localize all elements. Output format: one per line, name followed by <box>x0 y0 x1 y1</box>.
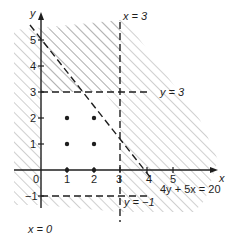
label-yneg1: y = −1 <box>123 196 155 208</box>
label-y3: y = 3 <box>159 86 185 98</box>
label-x3: x = 3 <box>122 10 148 22</box>
label-diag: 4y + 5x = 20 <box>160 183 221 195</box>
y-tick-2: 2 <box>30 112 36 124</box>
y-tick-neg1: −1 <box>25 190 38 202</box>
y-tick-5: 5 <box>30 34 36 46</box>
y-axis-label: y <box>29 7 37 19</box>
x-tick-2: 2 <box>91 173 97 185</box>
label-x0: x = 0 <box>27 223 53 235</box>
feasible-region <box>41 92 120 196</box>
y-tick-1: 1 <box>30 138 36 150</box>
hatched-region <box>0 0 243 245</box>
x-tick-4: 4 <box>146 173 152 185</box>
x-tick-3: 3 <box>116 173 122 185</box>
y-tick-3: 3 <box>30 86 36 98</box>
x-tick-1: 1 <box>64 173 70 185</box>
lp-diagram: y x 0 1 2 3 4 5 1 2 3 4 5 −1 x = 3 y = 3… <box>0 0 243 245</box>
origin-label: 0 <box>33 173 39 185</box>
y-tick-4: 4 <box>30 60 36 72</box>
